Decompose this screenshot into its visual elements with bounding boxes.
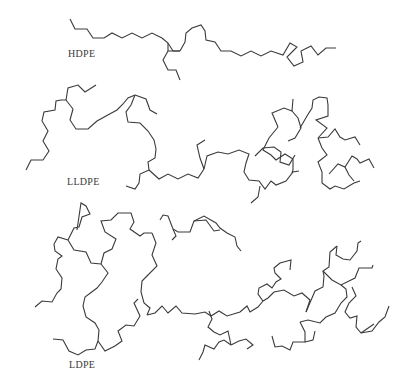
lldpe-chain-segment xyxy=(204,150,299,189)
lldpe-chain-segment xyxy=(66,85,96,100)
lldpe-chain-segment xyxy=(345,167,354,181)
ldpe-chain-segment xyxy=(141,233,157,315)
ldpe-chain-segment xyxy=(98,299,140,351)
hdpe-chain-segment xyxy=(168,43,180,51)
ldpe-chain-segment xyxy=(323,265,373,285)
hdpe-chain-segment xyxy=(163,51,180,80)
lldpe-chain-segment xyxy=(149,169,204,179)
ldpe-chain-segment xyxy=(83,264,108,341)
ldpe-chain-segment xyxy=(231,339,253,349)
ldpe-chain-segment xyxy=(101,213,152,264)
ldpe-chain-segment xyxy=(195,301,263,316)
lldpe-chain-segment xyxy=(197,140,205,169)
ldpe-chain-segment xyxy=(336,241,361,260)
hdpe-label: HDPE xyxy=(68,48,95,59)
ldpe-chain-segment xyxy=(147,306,195,315)
hdpe-chain-segment xyxy=(180,25,336,66)
lldpe-chain-segment xyxy=(26,100,66,170)
hdpe-chain-group xyxy=(70,19,336,80)
ldpe-chain-segment xyxy=(53,339,98,355)
ldpe-chain-segment xyxy=(160,215,220,232)
lldpe-chain-segment xyxy=(126,170,149,189)
lldpe-chain-segment xyxy=(300,97,328,138)
ldpe-chain-segment xyxy=(272,322,305,350)
lldpe-chain-segment xyxy=(251,186,260,203)
polyethylene-structure-figure: HDPE LLDPE LDPE xyxy=(0,0,403,388)
lldpe-label: LLDPE xyxy=(67,176,100,187)
ldpe-chain-segment xyxy=(263,290,310,312)
ldpe-chain-segment xyxy=(345,287,389,333)
lldpe-chain-segment xyxy=(329,156,374,174)
lldpe-chain-segment xyxy=(272,99,293,127)
ldpe-label: LDPE xyxy=(69,359,95,370)
ldpe-chain-segment xyxy=(300,285,347,323)
ldpe-chain-group xyxy=(35,203,389,360)
lldpe-chain-segment xyxy=(318,138,360,189)
ldpe-chain-segment xyxy=(68,203,90,240)
hdpe-chain-segment xyxy=(70,19,180,51)
ldpe-chain-segment xyxy=(194,216,241,251)
lldpe-chain-segment xyxy=(288,111,301,141)
lldpe-chain-segment xyxy=(66,95,135,129)
ldpe-chain-segment xyxy=(199,340,231,360)
ldpe-chain-segment xyxy=(258,260,291,301)
lldpe-chain-segment xyxy=(126,95,156,170)
chain-diagram-canvas xyxy=(0,0,403,388)
lldpe-chain-segment xyxy=(135,95,157,114)
ldpe-chain-segment xyxy=(35,237,68,307)
ldpe-chain-segment xyxy=(306,246,337,312)
ldpe-chain-segment xyxy=(305,331,315,342)
ldpe-chain-segment xyxy=(68,240,101,264)
